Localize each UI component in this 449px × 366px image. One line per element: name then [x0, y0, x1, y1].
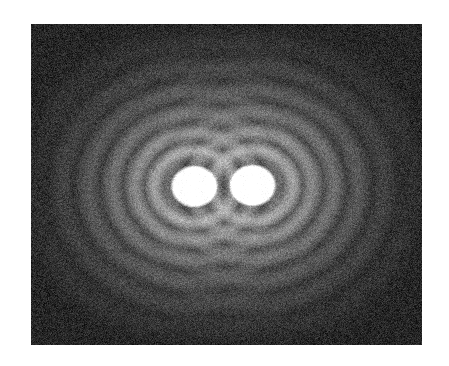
page-root [0, 0, 449, 366]
interference-image-panel [31, 24, 422, 345]
interference-pattern-canvas [31, 24, 422, 345]
